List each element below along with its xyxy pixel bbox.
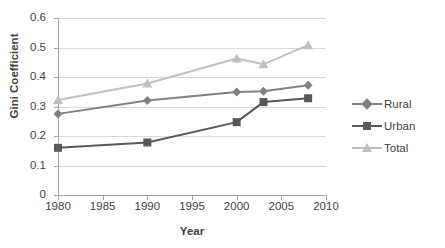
gini-coefficient-line-chart: Gini Coefficient 00.10.20.30.40.50.6 198… <box>0 0 445 248</box>
plot-area <box>58 18 326 195</box>
legend-label-rural: Rural <box>382 98 411 110</box>
y-axis-tick-label: 0.6 <box>2 12 46 24</box>
x-axis-tick-label: 1980 <box>34 201 82 213</box>
data-point-urban <box>233 118 241 126</box>
x-axis-tick-label: 2010 <box>302 201 350 213</box>
diamond-marker-icon <box>361 98 372 109</box>
series-line-rural <box>58 85 308 114</box>
data-point-urban <box>143 138 151 146</box>
data-point-total <box>303 40 313 49</box>
data-point-urban <box>259 98 267 106</box>
series-line-urban <box>58 98 308 148</box>
legend-item-total[interactable]: Total <box>352 137 444 159</box>
triangle-marker-icon <box>362 143 372 152</box>
x-axis-tick-label: 1990 <box>123 201 171 213</box>
data-point-rural <box>54 109 63 118</box>
series-layer <box>58 18 326 195</box>
data-point-total <box>232 53 242 62</box>
y-axis-tick-label: 0.1 <box>2 160 46 172</box>
data-point-rural <box>143 96 152 105</box>
square-marker-icon <box>363 122 371 130</box>
legend-item-rural[interactable]: Rural <box>352 93 444 115</box>
legend-swatch-rural <box>352 97 382 111</box>
legend-swatch-urban <box>352 119 382 133</box>
y-axis-tick-label: 0.4 <box>2 71 46 83</box>
data-point-rural <box>232 88 241 97</box>
y-axis-tick-label: 0.5 <box>2 42 46 54</box>
legend-item-urban[interactable]: Urban <box>352 115 444 137</box>
y-axis-tick-label: 0.3 <box>2 101 46 113</box>
chart-legend: Rural Urban Total <box>352 93 444 159</box>
x-axis-tick-label: 1985 <box>79 201 127 213</box>
legend-label-urban: Urban <box>382 120 415 132</box>
x-axis-tick-label: 1995 <box>168 201 216 213</box>
x-axis-tick-label: 2000 <box>213 201 261 213</box>
data-point-rural <box>259 87 268 96</box>
y-axis-tick-label: 0.2 <box>2 130 46 142</box>
data-point-urban <box>54 144 62 152</box>
series-line-total <box>58 45 308 100</box>
y-axis-tick-label: 0 <box>2 189 46 201</box>
legend-swatch-total <box>352 141 382 155</box>
x-axis-tick-label: 2005 <box>257 201 305 213</box>
data-point-rural <box>304 81 313 90</box>
data-point-urban <box>304 94 312 102</box>
legend-label-total: Total <box>382 142 408 154</box>
x-axis-title: Year <box>58 225 326 237</box>
